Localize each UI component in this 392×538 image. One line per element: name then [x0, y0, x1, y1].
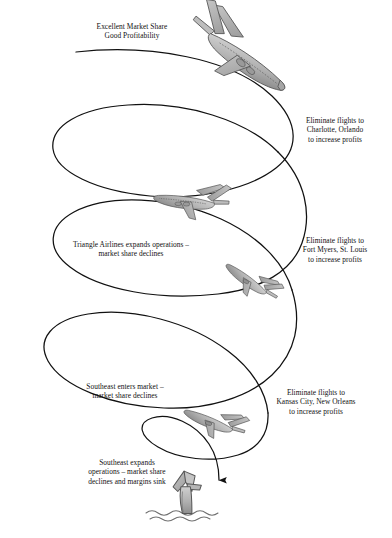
caption-eliminate-fort-myers-st-louis: Eliminate flights to Fort Myers, St. Lou… — [280, 236, 390, 264]
caption-line: Eliminate flights to — [283, 116, 387, 125]
caption-line: to increase profits — [283, 135, 387, 144]
caption-line: Good Profitability — [68, 31, 196, 40]
caption-line: market share declines — [50, 249, 212, 258]
caption-line: declines and margins sink — [56, 477, 198, 486]
caption-excellent-market-share: Excellent Market Share Good Profitabilit… — [68, 22, 196, 41]
caption-eliminate-kansas-city-new-orleans: Eliminate flights to Kansas City, New Or… — [248, 388, 384, 416]
caption-line: Excellent Market Share — [68, 22, 196, 31]
caption-line: Triangle Airlines expands operations – — [50, 240, 212, 249]
caption-line: to increase profits — [248, 407, 384, 416]
caption-eliminate-charlotte-orlando: Eliminate flights to Charlotte, Orlando … — [283, 116, 387, 144]
caption-line: Southeast expands — [56, 458, 198, 467]
caption-line: operations – market share — [56, 467, 198, 476]
caption-line: market share declines — [56, 391, 194, 400]
caption-line: to increase profits — [280, 255, 390, 264]
caption-line: Charlotte, Orlando — [283, 125, 387, 134]
caption-triangle-airlines-expands: Triangle Airlines expands operations – m… — [50, 240, 212, 259]
caption-line: Eliminate flights to — [248, 388, 384, 397]
caption-southeast-expands-operations: Southeast expands operations – market sh… — [56, 458, 198, 486]
diagram-canvas: Excellent Market Share Good Profitabilit… — [0, 0, 392, 538]
caption-southeast-enters-market: Southeast enters market – market share d… — [56, 382, 194, 401]
caption-line: Kansas City, New Orleans — [248, 397, 384, 406]
caption-line: Fort Myers, St. Louis — [280, 245, 390, 254]
caption-line: Eliminate flights to — [280, 236, 390, 245]
caption-line: Southeast enters market – — [56, 382, 194, 391]
